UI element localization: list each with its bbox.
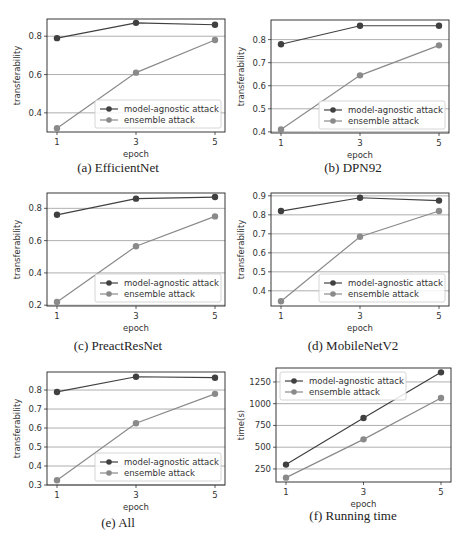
data-point: [357, 233, 363, 239]
legend-label: ensemble attack: [124, 468, 195, 478]
y-axis-label: transferability: [12, 220, 22, 280]
legend: model-agnostic attackensemble attack: [280, 372, 406, 400]
legend-label: model-agnostic attack: [348, 278, 443, 288]
y-axis-label: transferability: [236, 220, 246, 280]
data-point: [436, 42, 442, 48]
y-tick-label: 0.6: [28, 70, 42, 80]
data-point: [212, 213, 218, 219]
legend: model-agnostic attackensemble attack: [319, 274, 445, 302]
data-point: [54, 299, 60, 305]
legend-label: ensemble attack: [124, 289, 195, 299]
x-axis-label: epoch: [123, 502, 149, 512]
line-chart-f: 25050075010001250135epochtime(s)model-ag…: [235, 360, 471, 510]
y-tick-label: 0.2: [28, 300, 42, 310]
chart-panel-e: 0.30.40.50.60.70.8135epochtransferabilit…: [0, 360, 236, 542]
y-tick-label: 0.4: [28, 461, 42, 471]
y-tick-label: 750: [255, 420, 271, 430]
data-point: [283, 461, 289, 467]
legend: model-agnostic attackensemble attack: [95, 100, 221, 128]
data-point: [133, 374, 139, 380]
data-point: [54, 389, 60, 395]
y-tick-label: 0.8: [28, 385, 42, 395]
y-tick-label: 500: [255, 442, 271, 452]
legend-label: ensemble attack: [309, 387, 380, 397]
data-point: [360, 415, 366, 421]
figure-caption: (c) PreactResNet: [0, 338, 236, 354]
x-tick-label: 1: [54, 311, 59, 321]
data-point: [436, 23, 442, 29]
y-tick-label: 0.4: [28, 108, 42, 118]
x-tick-label: 5: [212, 311, 217, 321]
x-tick-label: 5: [438, 487, 443, 497]
legend-label: ensemble attack: [348, 116, 419, 126]
data-point: [54, 35, 60, 41]
data-point: [212, 374, 218, 380]
data-point: [212, 194, 218, 200]
line-chart-d: 0.40.50.60.70.80.9135epochtransferabilit…: [235, 175, 471, 325]
line-chart-e: 0.30.40.50.60.70.8135epochtransferabilit…: [0, 360, 236, 510]
chart-panel-c: 0.20.40.60.8135epochtransferabilitymodel…: [0, 175, 236, 357]
data-point: [438, 395, 444, 401]
y-tick-label: 0.4: [28, 268, 42, 278]
y-axis-label: transferability: [12, 399, 22, 459]
y-tick-label: 0.6: [252, 81, 266, 91]
data-point: [54, 212, 60, 218]
x-axis-label: epoch: [123, 323, 149, 333]
data-point: [278, 208, 284, 214]
y-axis-label: transferability: [236, 47, 246, 107]
x-tick-label: 3: [133, 311, 138, 321]
data-point: [212, 37, 218, 43]
figure-caption: (b) DPN92: [235, 160, 471, 176]
data-point: [436, 197, 442, 203]
legend-label: model-agnostic attack: [124, 104, 219, 114]
chart-panel-d: 0.40.50.60.70.80.9135epochtransferabilit…: [235, 175, 471, 357]
x-tick-label: 5: [212, 490, 217, 500]
y-tick-label: 0.6: [28, 423, 42, 433]
line-chart-a: 0.40.60.8135epochtransferabilitymodel-ag…: [0, 0, 236, 150]
data-point: [278, 41, 284, 47]
data-point: [436, 208, 442, 214]
y-tick-label: 250: [255, 464, 271, 474]
figure-caption: (e) All: [0, 515, 236, 531]
data-point: [357, 72, 363, 78]
chart-panel-b: 0.40.50.60.70.8135epochtransferabilitymo…: [235, 0, 471, 182]
x-axis-label: epoch: [347, 150, 373, 160]
x-tick-label: 3: [133, 490, 138, 500]
legend-label: model-agnostic attack: [124, 278, 219, 288]
y-tick-label: 0.7: [252, 229, 266, 239]
data-point: [54, 125, 60, 131]
y-tick-label: 0.8: [252, 210, 266, 220]
y-tick-label: 0.3: [28, 480, 42, 490]
x-tick-label: 3: [361, 487, 366, 497]
legend-label: ensemble attack: [124, 115, 195, 125]
y-tick-label: 0.5: [252, 104, 266, 114]
data-point: [283, 474, 289, 480]
y-tick-label: 1250: [249, 377, 271, 387]
data-point: [278, 298, 284, 304]
x-tick-label: 5: [436, 138, 441, 148]
y-tick-label: 0.7: [252, 58, 266, 68]
data-point: [133, 243, 139, 249]
y-tick-label: 0.6: [28, 236, 42, 246]
x-tick-label: 1: [54, 137, 59, 147]
data-point: [133, 20, 139, 26]
line-chart-c: 0.20.40.60.8135epochtransferabilitymodel…: [0, 175, 236, 325]
x-tick-label: 3: [133, 137, 138, 147]
data-point: [133, 69, 139, 75]
x-tick-label: 1: [278, 138, 283, 148]
x-tick-label: 1: [278, 311, 283, 321]
y-tick-label: 0.4: [252, 127, 266, 137]
y-tick-label: 0.8: [28, 203, 42, 213]
data-point: [133, 195, 139, 201]
legend: model-agnostic attackensemble attack: [95, 453, 221, 481]
legend-label: ensemble attack: [348, 289, 419, 299]
data-point: [212, 391, 218, 397]
x-axis-label: epoch: [123, 149, 149, 159]
y-tick-label: 0.6: [252, 248, 266, 258]
y-tick-label: 1000: [249, 399, 271, 409]
data-point: [133, 420, 139, 426]
y-tick-label: 0.8: [252, 35, 266, 45]
data-point: [212, 22, 218, 28]
line-chart-b: 0.40.50.60.70.8135epochtransferabilitymo…: [235, 0, 471, 150]
x-tick-label: 3: [357, 311, 362, 321]
